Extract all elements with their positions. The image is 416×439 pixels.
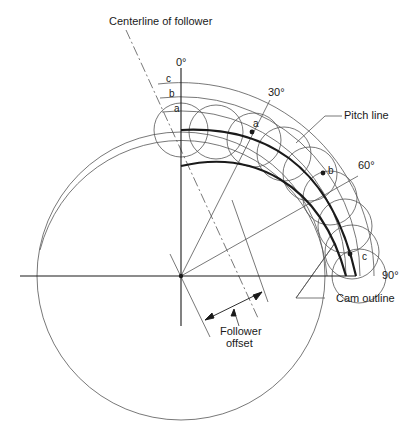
point-a: [250, 130, 255, 135]
offset-line-1: [170, 254, 210, 337]
label-a-point: a: [253, 119, 259, 129]
label-90-deg: 90°: [382, 270, 399, 281]
cam-outline: [181, 162, 346, 276]
cam-diagram: [0, 0, 416, 439]
point-b: [321, 171, 326, 176]
pitch-line-leader: [296, 116, 342, 143]
arrowhead-left: [205, 313, 214, 320]
label-0-deg: 0°: [176, 57, 187, 68]
offset-line-2: [232, 200, 268, 302]
label-offset: offset: [226, 338, 253, 349]
point-c: [348, 252, 353, 257]
label-b-point: b: [328, 166, 334, 176]
radial-60: [181, 176, 358, 276]
arrowhead-right: [253, 292, 262, 300]
label-60-deg: 60°: [358, 160, 375, 171]
label-centerline-of-follower: Centerline of follower: [109, 16, 212, 27]
label-c-left: c: [166, 74, 171, 84]
pitch-line: [181, 130, 356, 276]
prime-circle-arc: [40, 140, 327, 276]
cam-outline-leader: [296, 243, 335, 298]
center-dot: [179, 274, 183, 278]
label-follower: Follower: [220, 326, 262, 337]
roller-1: [189, 105, 243, 159]
label-c-point: c: [362, 252, 367, 262]
label-a-left: a: [174, 104, 180, 114]
follower-centerline: [126, 30, 258, 318]
offset-leader-arrow: [231, 309, 236, 316]
label-pitch-line: Pitch line: [344, 110, 389, 121]
label-cam-outline: Cam outline: [336, 293, 395, 304]
arc-c: [158, 83, 374, 276]
label-30-deg: 30°: [268, 87, 285, 98]
label-b-left: b: [169, 89, 175, 99]
